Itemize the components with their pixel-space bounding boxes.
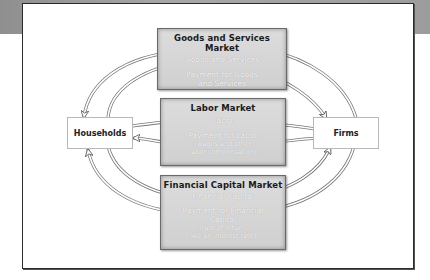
goods-services-market-title: Goods and Services Market xyxy=(158,33,286,53)
firms-label: Firms xyxy=(333,129,358,138)
wages-label: (wages and other xyxy=(161,140,285,148)
goods-services-market-box: Goods and Services Market Goods and Serv… xyxy=(157,28,287,90)
payment-financial-label-2: Capital xyxy=(161,215,285,224)
labor-label: Labor xyxy=(161,116,285,125)
rate-of-return-label: (rate of return, xyxy=(161,224,285,232)
payment-goods-label-1: Payment for Goods xyxy=(158,70,286,79)
financial-capital-market-title: Financial Capital Market xyxy=(161,180,285,190)
payment-financial-label-1: Payment for Financial xyxy=(161,206,285,215)
firms-box: Firms xyxy=(313,117,379,149)
financial-capital-market-box: Financial Capital Market Financial Capit… xyxy=(160,175,286,250)
interest-rate-label: like an interest rate) xyxy=(161,232,285,240)
financial-capital-label: Financial Capital xyxy=(161,192,285,201)
labor-compensation-label: labor compensation) xyxy=(161,148,285,156)
labor-market-box: Labor Market Labor Payment for Labor (wa… xyxy=(160,98,286,166)
goods-and-services-label: Goods and Services xyxy=(158,55,286,64)
households-label: Households xyxy=(74,129,127,138)
households-box: Households xyxy=(67,117,133,149)
payment-labor-label: Payment for Labor xyxy=(161,131,285,140)
payment-goods-label-2: and Services xyxy=(158,79,286,88)
labor-market-title: Labor Market xyxy=(161,103,285,113)
